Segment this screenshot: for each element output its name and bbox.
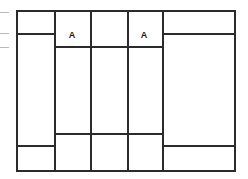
- hline-left-upper-divider: [16, 33, 56, 35]
- diagram-canvas: AA: [0, 0, 248, 179]
- cell-label-a-left: A: [52, 31, 92, 40]
- hline-right-upper-divider: [162, 33, 236, 35]
- margin-tick-3: [0, 47, 9, 48]
- hline-left-lower-divider: [16, 145, 56, 147]
- hline-inner-lower-divider: [54, 133, 163, 135]
- hline-bottom-border: [16, 170, 236, 172]
- hline-inner-upper-divider: [54, 46, 163, 48]
- margin-tick-2: [0, 33, 9, 34]
- hline-top-border: [16, 10, 236, 12]
- hline-right-lower-divider: [162, 145, 236, 147]
- cell-label-a-right: A: [124, 31, 164, 40]
- margin-tick-1: [0, 12, 9, 13]
- vline-outer-right: [234, 10, 236, 171]
- vline-outer-left: [16, 10, 18, 171]
